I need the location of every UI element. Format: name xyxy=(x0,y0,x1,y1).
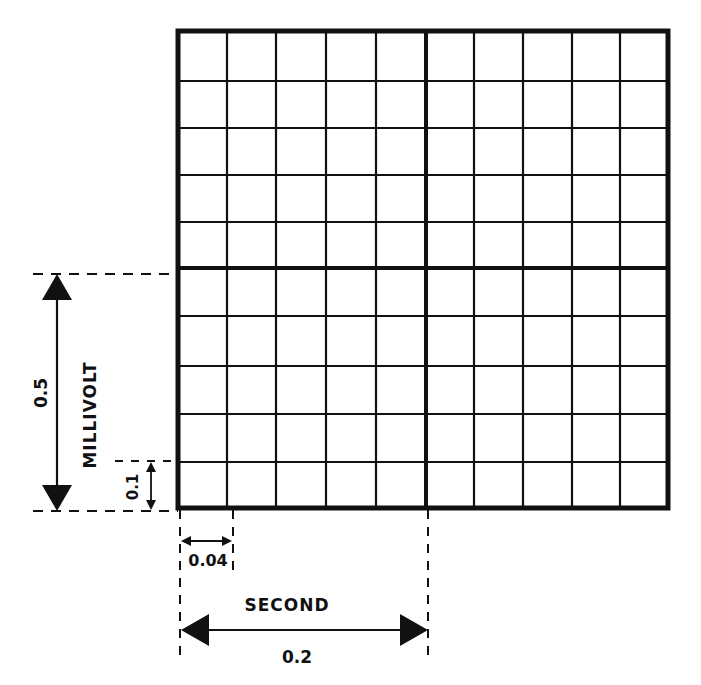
arrow-up-icon xyxy=(42,274,72,300)
millivolt-unit-label: MILLIVOLT xyxy=(80,361,100,468)
tenth-millivolt-label: 0.1 xyxy=(124,474,142,501)
small-arrow-right-icon xyxy=(222,536,232,546)
ecg-grid xyxy=(178,31,668,508)
small-arrow-down-icon xyxy=(146,500,156,510)
arrow-down-icon xyxy=(42,485,72,511)
ecg-grid-diagram: 0.5 MILLIVOLT 0.1 0.04 SECOND 0.2 xyxy=(0,0,701,685)
small-time-label: 0.04 xyxy=(188,551,227,570)
half-millivolt-label: 0.5 xyxy=(31,378,51,408)
small-arrow-left-icon xyxy=(181,536,191,546)
arrow-right-icon xyxy=(400,614,428,646)
vertical-scale xyxy=(33,274,178,511)
grid-major-lines xyxy=(178,31,668,508)
horizontal-scale xyxy=(180,510,428,662)
second-unit-label: SECOND xyxy=(244,595,329,615)
arrow-left-icon xyxy=(181,614,209,646)
grid-minor-horizontal-lines xyxy=(178,81,668,462)
small-arrow-up-icon xyxy=(146,462,156,472)
fifth-second-label: 0.2 xyxy=(282,647,312,667)
